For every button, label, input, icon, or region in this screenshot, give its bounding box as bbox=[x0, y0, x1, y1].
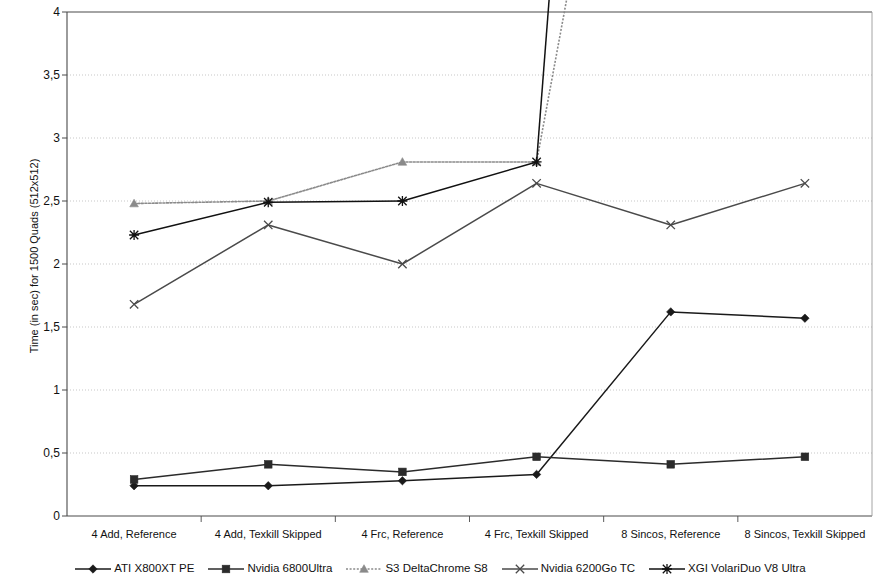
y-axis-tick-label: 2,5 bbox=[26, 194, 60, 208]
series-line-segment bbox=[268, 225, 402, 264]
cross-marker bbox=[398, 260, 406, 268]
legend-label: Nvidia 6200Go TC bbox=[541, 562, 635, 574]
x-axis-tick-label: 8 Sincos, Reference bbox=[621, 528, 720, 540]
square-marker bbox=[667, 461, 675, 469]
y-axis-tick-group: 00,511,522,533,54 bbox=[20, 0, 60, 588]
grid-lines bbox=[62, 12, 872, 522]
legend-swatch bbox=[75, 563, 111, 573]
cross-marker bbox=[532, 179, 540, 187]
legend-swatch bbox=[346, 563, 382, 573]
legend-item[interactable]: ATI X800XT PE bbox=[75, 562, 194, 574]
series-line-segment bbox=[537, 183, 671, 225]
asterisk-marker bbox=[532, 157, 542, 167]
legend-label: XGI VolariDuo V8 Ultra bbox=[688, 562, 806, 574]
legend-label: Nvidia 6800Ultra bbox=[247, 562, 332, 574]
series-line-segment bbox=[671, 457, 805, 465]
y-axis-tick-label: 0,5 bbox=[26, 446, 60, 460]
x-axis-tick-label: 4 Add, Texkill Skipped bbox=[215, 528, 322, 540]
series-nvidia-6200go-tc bbox=[130, 179, 809, 308]
series-line-segment bbox=[134, 225, 268, 304]
series-line-segment bbox=[134, 464, 268, 479]
square-marker bbox=[130, 476, 138, 484]
series-line-segment bbox=[268, 481, 402, 486]
legend-item[interactable]: XGI VolariDuo V8 Ultra bbox=[649, 562, 806, 574]
legend-item[interactable]: Nvidia 6200Go TC bbox=[502, 562, 635, 574]
series-line-segment bbox=[671, 183, 805, 225]
asterisk-marker bbox=[662, 564, 672, 574]
asterisk-marker bbox=[263, 197, 273, 207]
series-xgi-volariduo-v8-ultra bbox=[129, 0, 549, 240]
x-axis-tick-label: 4 Add, Reference bbox=[92, 528, 177, 540]
line-chart: Time (in sec) for 1500 Quads (512x512) 0… bbox=[0, 0, 881, 588]
square-marker bbox=[223, 565, 231, 573]
square-marker bbox=[264, 461, 272, 469]
y-axis-tick-label: 4 bbox=[26, 5, 60, 19]
series-line-segment bbox=[402, 457, 536, 472]
plot-area bbox=[0, 0, 881, 588]
legend-swatch bbox=[502, 563, 538, 573]
chart-legend: ATI X800XT PENvidia 6800UltraS3 DeltaChr… bbox=[0, 562, 881, 574]
legend-item[interactable]: Nvidia 6800Ultra bbox=[208, 562, 332, 574]
y-axis-tick-label: 1,5 bbox=[26, 320, 60, 334]
series-nvidia-6800ultra bbox=[130, 453, 808, 483]
y-axis-tick-label: 3 bbox=[26, 131, 60, 145]
square-marker bbox=[801, 453, 809, 461]
x-axis-tick-label: 4 Frc, Reference bbox=[361, 528, 443, 540]
cross-marker bbox=[801, 179, 809, 187]
series-line-segment bbox=[537, 312, 671, 475]
x-axis-tick-label: 8 Sincos, Texkill Skipped bbox=[744, 528, 865, 540]
y-axis-tick-label: 3,5 bbox=[26, 68, 60, 82]
series-s3-deltachrome-s8 bbox=[130, 0, 567, 207]
diamond-marker bbox=[801, 314, 809, 322]
y-axis-tick-label: 0 bbox=[26, 509, 60, 523]
asterisk-marker bbox=[397, 196, 407, 206]
diamond-marker bbox=[264, 482, 272, 490]
square-marker bbox=[399, 468, 407, 476]
series-line-segment bbox=[268, 201, 402, 202]
legend-swatch bbox=[208, 563, 244, 573]
legend-item[interactable]: S3 DeltaChrome S8 bbox=[346, 562, 487, 574]
legend-label: S3 DeltaChrome S8 bbox=[385, 562, 487, 574]
cross-marker bbox=[130, 300, 138, 308]
asterisk-marker bbox=[129, 230, 139, 240]
series-line-segment bbox=[402, 474, 536, 480]
x-axis-tick-label: 4 Frc, Texkill Skipped bbox=[485, 528, 589, 540]
series-line-segment bbox=[268, 464, 402, 472]
diamond-marker bbox=[89, 565, 97, 573]
diamond-marker bbox=[398, 477, 406, 485]
series-line-segment bbox=[134, 202, 268, 235]
cross-marker bbox=[264, 221, 272, 229]
cross-marker bbox=[667, 221, 675, 229]
series-line-segment bbox=[537, 457, 671, 465]
legend-swatch bbox=[649, 563, 685, 573]
series-line-segment bbox=[671, 312, 805, 318]
series-line-segment bbox=[268, 162, 402, 201]
y-axis-tick-label: 1 bbox=[26, 383, 60, 397]
square-marker bbox=[533, 453, 541, 461]
y-axis-tick-label: 2 bbox=[26, 257, 60, 271]
legend-label: ATI X800XT PE bbox=[114, 562, 194, 574]
